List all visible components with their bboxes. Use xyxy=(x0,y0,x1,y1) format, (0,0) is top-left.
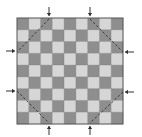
board-cell xyxy=(88,112,100,124)
board-cell xyxy=(99,100,111,112)
board-cell xyxy=(52,53,64,65)
board-cell xyxy=(76,112,88,124)
board-cell xyxy=(52,30,64,42)
board-cell xyxy=(88,77,100,89)
board-cell xyxy=(76,30,88,42)
board-cell xyxy=(17,89,29,101)
board-cell xyxy=(76,77,88,89)
board-cell xyxy=(111,42,123,54)
board-cell xyxy=(29,30,41,42)
board-cell xyxy=(52,77,64,89)
board-cell xyxy=(17,100,29,112)
board-cell xyxy=(64,18,76,30)
board-cell xyxy=(76,42,88,54)
board-cell xyxy=(111,100,123,112)
board-cell xyxy=(52,65,64,77)
board-cell xyxy=(99,65,111,77)
board-cell xyxy=(99,89,111,101)
arrow-right-icon xyxy=(125,50,134,54)
board-cell xyxy=(76,89,88,101)
checkerboard-cells xyxy=(17,18,123,124)
board-cell xyxy=(17,18,29,30)
arrow-top-icon xyxy=(47,7,51,16)
board-cell xyxy=(111,112,123,124)
arrow-right-icon xyxy=(125,90,134,94)
board-cell xyxy=(64,89,76,101)
board-cell xyxy=(29,77,41,89)
board-cell xyxy=(52,18,64,30)
arrow-left-icon xyxy=(6,89,15,93)
board-cell xyxy=(88,53,100,65)
board-cell xyxy=(41,77,53,89)
board-cell xyxy=(52,42,64,54)
board-cell xyxy=(99,77,111,89)
board-cell xyxy=(41,30,53,42)
board-cell xyxy=(76,53,88,65)
board-cell xyxy=(17,65,29,77)
board-cell xyxy=(41,89,53,101)
board-cell xyxy=(41,100,53,112)
board-cell xyxy=(52,112,64,124)
board-cell xyxy=(76,100,88,112)
board-cell xyxy=(111,77,123,89)
board-cell xyxy=(41,42,53,54)
board-cell xyxy=(41,112,53,124)
board-cell xyxy=(111,18,123,30)
board-cell xyxy=(17,112,29,124)
board-cell xyxy=(76,65,88,77)
board-cell xyxy=(99,42,111,54)
board-cell xyxy=(99,112,111,124)
board-cell xyxy=(88,65,100,77)
board-cell xyxy=(99,53,111,65)
board-cell xyxy=(111,65,123,77)
board-cell xyxy=(88,18,100,30)
checkerboard-diagram xyxy=(0,0,142,137)
board-cell xyxy=(76,18,88,30)
board-cell xyxy=(17,53,29,65)
arrow-left-icon xyxy=(6,49,15,53)
board-cell xyxy=(17,77,29,89)
board-cell xyxy=(64,112,76,124)
board-cell xyxy=(29,18,41,30)
board-cell xyxy=(111,53,123,65)
board-cell xyxy=(29,89,41,101)
arrow-bottom-icon xyxy=(47,126,51,135)
board-cell xyxy=(64,42,76,54)
board-cell xyxy=(88,100,100,112)
board-cell xyxy=(41,18,53,30)
board-cell xyxy=(29,65,41,77)
board-cell xyxy=(64,30,76,42)
board-cell xyxy=(52,100,64,112)
board-cell xyxy=(29,112,41,124)
board-cell xyxy=(29,100,41,112)
board-cell xyxy=(29,42,41,54)
board-cell xyxy=(17,30,29,42)
arrow-bottom-icon xyxy=(88,126,92,135)
arrow-top-icon xyxy=(88,7,92,16)
board-cell xyxy=(64,53,76,65)
board-cell xyxy=(111,89,123,101)
board-cell xyxy=(64,77,76,89)
board-cell xyxy=(41,65,53,77)
board-cell xyxy=(88,42,100,54)
board-cell xyxy=(111,30,123,42)
board-cell xyxy=(41,53,53,65)
board-cell xyxy=(17,42,29,54)
board-cell xyxy=(64,65,76,77)
board-cell xyxy=(88,30,100,42)
board-cell xyxy=(52,89,64,101)
board-cell xyxy=(29,53,41,65)
board-cell xyxy=(99,18,111,30)
board-cell xyxy=(88,89,100,101)
board-cell xyxy=(64,100,76,112)
board-cell xyxy=(99,30,111,42)
